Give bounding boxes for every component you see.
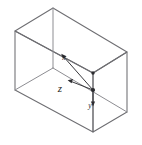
box-corner-dot xyxy=(91,71,94,74)
box-diagram-svg: x z y xyxy=(0,0,142,145)
axis-label-x: x xyxy=(61,53,66,62)
axis-label-z: z xyxy=(57,82,63,94)
box-edge-left-face xyxy=(15,31,93,132)
axis-arrow-z xyxy=(68,79,73,83)
axis-label-y: y xyxy=(87,101,92,110)
axis-origin-dot xyxy=(91,88,95,92)
box-edge-hidden-bottom-left xyxy=(15,68,53,90)
box-edge-right-face xyxy=(93,52,127,132)
figure-canvas: x z y xyxy=(0,0,142,145)
axis-line-x xyxy=(63,56,93,90)
